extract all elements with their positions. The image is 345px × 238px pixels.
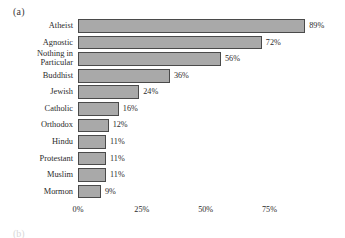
bar-row: Hindu11%	[0, 134, 345, 151]
bar-row: Jewish24%	[0, 84, 345, 101]
category-label: Protestant	[3, 154, 73, 163]
bar-value-label: 89%	[309, 21, 324, 30]
bar-row: Muslim11%	[0, 167, 345, 184]
panel-letter-b-partial: (b)	[13, 228, 25, 238]
category-label: Jewish	[3, 87, 73, 96]
bar	[78, 52, 221, 66]
bar-value-label: 16%	[123, 104, 138, 113]
bar-chart-plot-area: Atheist89%Agnostic72%Nothing in Particul…	[0, 0, 345, 238]
bar	[78, 168, 106, 182]
x-tick-label: 75%	[262, 205, 277, 215]
bar	[78, 36, 262, 50]
bar-value-label: 11%	[110, 137, 125, 146]
bar	[78, 152, 106, 166]
bar	[78, 85, 139, 99]
category-label: Buddhist	[3, 71, 73, 80]
bar-row: Mormon9%	[0, 184, 345, 201]
bar-value-label: 36%	[174, 71, 189, 80]
bar-value-label: 72%	[266, 38, 281, 47]
category-label: Orthodox	[3, 120, 73, 129]
x-tick-label: 50%	[198, 205, 213, 215]
bar-row: Catholic16%	[0, 101, 345, 118]
category-label: Mormon	[3, 187, 73, 196]
bar-row: Protestant11%	[0, 150, 345, 167]
bar-value-label: 12%	[113, 120, 128, 129]
bar-row: Buddhist36%	[0, 68, 345, 85]
category-label: Catholic	[3, 104, 73, 113]
chart-figure-panel-a: (a) Atheist89%Agnostic72%Nothing in Part…	[0, 0, 345, 238]
category-label: Agnostic	[3, 38, 73, 47]
x-tick-label: 0%	[73, 205, 84, 215]
category-label: Hindu	[3, 137, 73, 146]
x-axis-tick-labels: 0%25%50%75%	[0, 205, 345, 219]
bar	[78, 185, 101, 199]
bar	[78, 19, 305, 33]
x-tick-label: 25%	[134, 205, 149, 215]
category-label: Muslim	[3, 170, 73, 179]
category-label: Nothing in Particular	[3, 50, 73, 67]
bar	[78, 135, 106, 149]
bar-value-label: 56%	[225, 54, 240, 63]
bar	[78, 69, 170, 83]
bar-value-label: 11%	[110, 170, 125, 179]
bar-row: Orthodox12%	[0, 117, 345, 134]
bar-value-label: 24%	[143, 87, 158, 96]
bar-value-label: 9%	[105, 187, 116, 196]
bar	[78, 119, 109, 133]
category-label: Atheist	[3, 21, 73, 30]
bar-value-label: 11%	[110, 154, 125, 163]
bar	[78, 102, 119, 116]
bar-row: Atheist89%	[0, 18, 345, 35]
bar-row: Nothing in Particular56%	[0, 51, 345, 68]
